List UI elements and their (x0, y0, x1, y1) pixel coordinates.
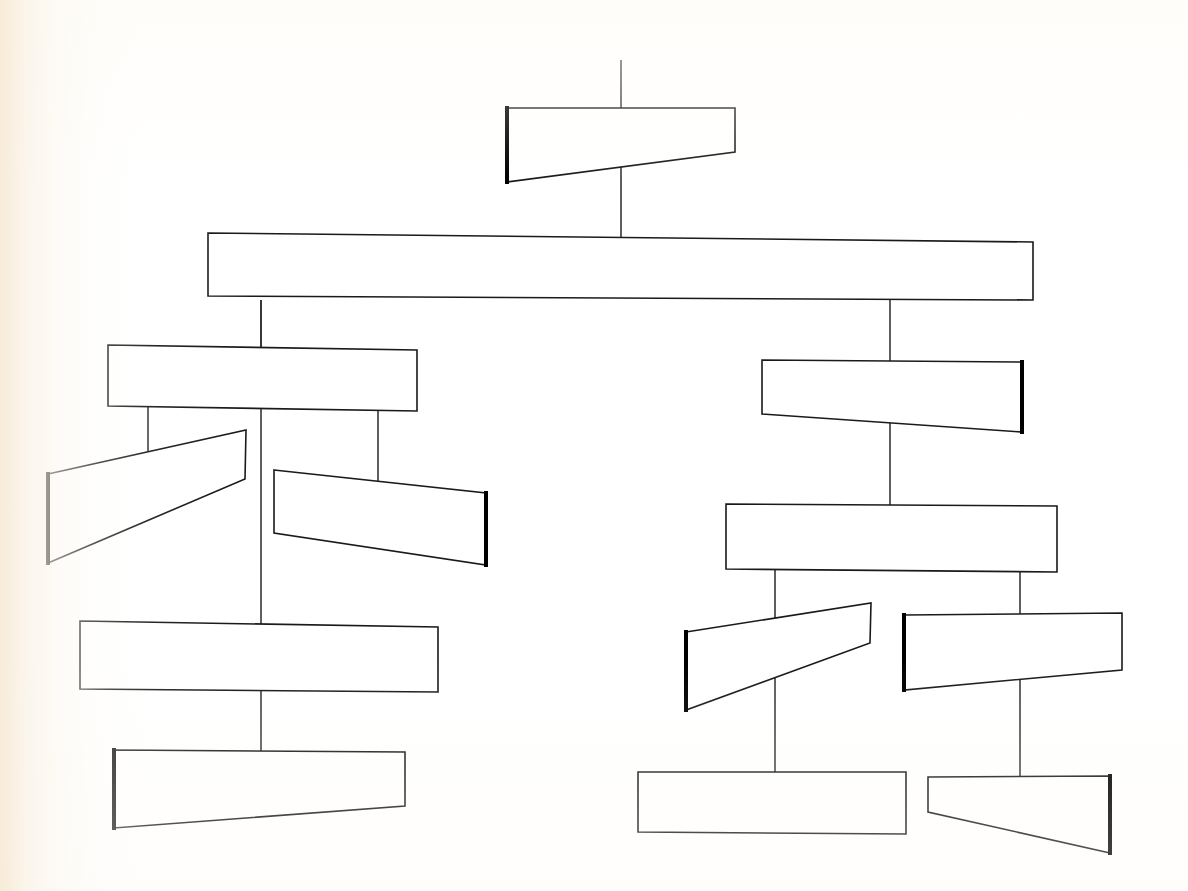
left-tail-node-outline[interactable] (114, 750, 405, 828)
right-mid-node[interactable] (726, 504, 1057, 572)
right-tail-b-node-outline[interactable] (928, 776, 1110, 853)
right-tail-b-node[interactable] (928, 776, 1110, 853)
left-branch-head-node-outline[interactable] (108, 345, 417, 411)
left-child-b-node[interactable] (274, 470, 486, 565)
right-branch-head-node[interactable] (762, 360, 1022, 432)
right-child-b-node[interactable] (904, 613, 1122, 690)
right-child-a-node[interactable] (686, 603, 871, 710)
right-branch-head-node-outline[interactable] (762, 360, 1022, 432)
left-child-a-node[interactable] (48, 430, 246, 563)
right-child-b-node-outline[interactable] (904, 613, 1122, 690)
left-branch-head-node[interactable] (108, 345, 417, 411)
left-tail-node[interactable] (114, 750, 405, 828)
right-mid-node-outline[interactable] (726, 504, 1057, 572)
node-layer (48, 108, 1122, 853)
right-tail-a-node[interactable] (638, 772, 906, 834)
diagram-canvas (0, 0, 1188, 891)
right-child-a-node-outline[interactable] (686, 603, 871, 710)
spine-bar-node[interactable] (208, 233, 1033, 300)
left-mid-node[interactable] (80, 621, 438, 692)
left-child-b-node-outline[interactable] (274, 470, 486, 565)
spine-bar-node-outline[interactable] (208, 233, 1033, 300)
right-tail-a-node-outline[interactable] (638, 772, 906, 834)
hierarchy-diagram (0, 0, 1188, 891)
left-child-a-node-outline[interactable] (48, 430, 246, 563)
left-mid-node-outline[interactable] (80, 621, 438, 692)
